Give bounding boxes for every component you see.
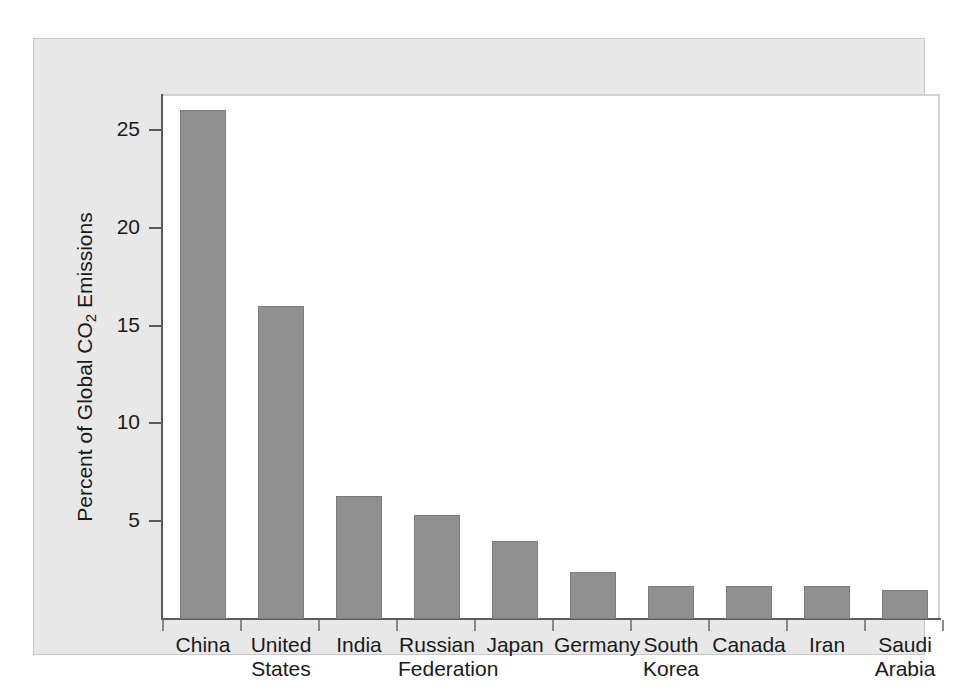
x-tick-mark <box>240 620 242 631</box>
x-axis-label-line: China <box>164 633 242 657</box>
y-tick-label-text: 15 <box>76 314 140 335</box>
bar <box>180 110 226 619</box>
y-tick-mark <box>149 520 161 522</box>
y-tick-label-text: 5 <box>76 509 140 530</box>
x-axis-label: RussianFederation <box>398 633 476 680</box>
x-tick-mark <box>162 620 164 631</box>
y-tick-mark <box>149 325 161 327</box>
bar <box>882 590 928 619</box>
x-axis-label-line: Federation <box>398 657 476 681</box>
x-axis-label-line: Saudi <box>866 633 944 657</box>
y-tick-mark <box>149 129 161 131</box>
y-tick-label-text: 10 <box>76 411 140 432</box>
y-tick-label: 20 <box>70 216 140 238</box>
x-tick-mark <box>396 620 398 631</box>
y-tick-mark <box>149 227 161 229</box>
y-tick-mark <box>149 422 161 424</box>
bar <box>804 586 850 619</box>
x-axis-label-line: Russian <box>398 633 476 657</box>
bar <box>648 586 694 619</box>
x-tick-mark <box>786 620 788 631</box>
bar <box>414 515 460 619</box>
bar <box>258 306 304 619</box>
x-axis-label-line: Iran <box>788 633 866 657</box>
x-axis-label-line: Japan <box>476 633 554 657</box>
x-tick-mark <box>630 620 632 631</box>
x-tick-mark <box>474 620 476 631</box>
x-axis-label-line: United <box>242 633 320 657</box>
y-axis-line <box>161 94 163 620</box>
x-axis-label: Iran <box>788 633 866 657</box>
x-tick-mark <box>552 620 554 631</box>
y-tick-label: 15 <box>70 314 140 336</box>
x-axis-label: Japan <box>476 633 554 657</box>
x-tick-mark <box>318 620 320 631</box>
x-axis-label: Germany <box>554 633 632 657</box>
x-axis-label: UnitedStates <box>242 633 320 680</box>
x-axis-label: India <box>320 633 398 657</box>
y-tick-label-text: 20 <box>76 216 140 237</box>
y-tick-label-text: 25 <box>76 118 140 139</box>
x-tick-mark <box>708 620 710 631</box>
x-axis-label-line: Korea <box>632 657 710 681</box>
bar <box>492 541 538 619</box>
x-tick-mark <box>942 620 944 631</box>
x-axis-label: SaudiArabia <box>866 633 944 680</box>
x-axis-label-line: Canada <box>710 633 788 657</box>
x-axis-label-line: Arabia <box>866 657 944 681</box>
x-axis-label-line: South <box>632 633 710 657</box>
bar <box>726 586 772 619</box>
x-tick-mark <box>864 620 866 631</box>
x-axis-label-line: States <box>242 657 320 681</box>
y-tick-label: 10 <box>70 411 140 433</box>
y-tick-label: 25 <box>70 118 140 140</box>
chart-panel: Percent of Global CO2 Emissions 51015202… <box>33 38 925 655</box>
x-axis-label-line: Germany <box>554 633 632 657</box>
x-axis-label: Canada <box>710 633 788 657</box>
y-tick-label: 5 <box>70 509 140 531</box>
x-axis-label-line: India <box>320 633 398 657</box>
x-axis-label: China <box>164 633 242 657</box>
figure-container: Percent of Global CO2 Emissions 51015202… <box>0 0 958 689</box>
x-axis-label: SouthKorea <box>632 633 710 680</box>
bar <box>570 572 616 619</box>
bar <box>336 496 382 619</box>
